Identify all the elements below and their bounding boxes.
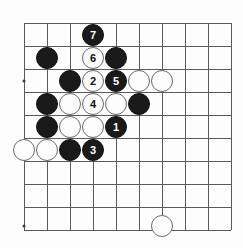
numbered-stone-3[interactable]: 3	[82, 139, 104, 161]
white-stone[interactable]	[151, 215, 173, 237]
grid-line-horizontal	[24, 138, 231, 139]
star-point	[23, 80, 26, 83]
grid-line-horizontal	[24, 46, 231, 47]
stone-move-number: 1	[113, 122, 119, 133]
grid-line-vertical	[162, 23, 163, 230]
black-stone[interactable]	[128, 93, 150, 115]
white-stone[interactable]	[151, 70, 173, 92]
grid-line-horizontal	[24, 92, 231, 93]
numbered-stone-2[interactable]: 2	[82, 70, 104, 92]
numbered-stone-6[interactable]: 6	[82, 47, 104, 69]
black-stone[interactable]	[59, 139, 81, 161]
black-stone[interactable]	[36, 93, 58, 115]
black-stone[interactable]	[59, 70, 81, 92]
white-stone[interactable]	[59, 93, 81, 115]
grid-line-horizontal	[24, 184, 231, 185]
grid-line-vertical	[185, 23, 186, 230]
black-stone[interactable]	[36, 47, 58, 69]
grid-line-vertical	[139, 23, 140, 230]
grid-line-horizontal	[24, 115, 231, 116]
numbered-stone-7[interactable]: 7	[82, 24, 104, 46]
grid-line-vertical	[24, 23, 25, 230]
numbered-stone-5[interactable]: 5	[105, 70, 127, 92]
stone-move-number: 6	[90, 53, 96, 64]
stone-move-number: 3	[90, 145, 96, 156]
grid-line-vertical	[208, 23, 209, 230]
stone-move-number: 4	[90, 99, 96, 110]
grid-line-horizontal	[24, 230, 231, 231]
star-point	[23, 225, 26, 228]
white-stone[interactable]	[105, 93, 127, 115]
grid-line-horizontal	[24, 207, 231, 208]
black-stone[interactable]	[105, 47, 127, 69]
numbered-stone-4[interactable]: 4	[82, 93, 104, 115]
numbered-stone-1[interactable]: 1	[105, 116, 127, 138]
grid-line-horizontal	[24, 23, 231, 24]
white-stone[interactable]	[13, 139, 35, 161]
white-stone[interactable]	[59, 116, 81, 138]
grid-line-horizontal	[24, 69, 231, 70]
stone-move-number: 7	[90, 30, 96, 41]
white-stone[interactable]	[82, 116, 104, 138]
go-board-diagram: 7625413	[0, 0, 243, 248]
grid-line-vertical	[231, 23, 232, 230]
grid-line-horizontal	[24, 161, 231, 162]
black-stone[interactable]	[36, 116, 58, 138]
stone-move-number: 5	[113, 76, 119, 87]
stone-move-number: 2	[90, 76, 96, 87]
white-stone[interactable]	[36, 139, 58, 161]
white-stone[interactable]	[128, 70, 150, 92]
